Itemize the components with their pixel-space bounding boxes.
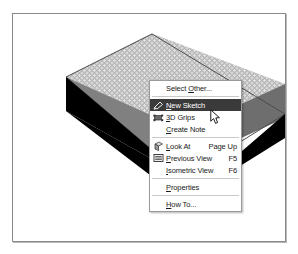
menu-separator [152,96,239,97]
menu-item-accel: F5 [228,154,238,163]
context-menu[interactable]: Select Other... New Sketch [149,80,242,212]
menu-item-label: 3D Grips [166,113,231,122]
menu-item-label: How To... [166,200,231,209]
menu-item-properties[interactable]: Properties [150,181,241,193]
menu-item-label: Select Other... [166,84,231,93]
menu-item-label: Properties [166,183,231,192]
screenshot-root: Select Other... New Sketch [0,0,298,254]
menu-item-new-sketch[interactable]: New Sketch [150,99,241,111]
menu-item-how-to[interactable]: How To... [150,198,241,210]
menu-item-accel: F6 [228,166,238,175]
previous-view-icon [152,153,164,164]
menu-item-label: Create Note [166,125,231,134]
look-at-icon [152,141,164,152]
menu-item-look-at[interactable]: Look At Page Up [150,140,241,152]
menu-icon-placeholder [152,199,164,210]
menu-item-label: New Sketch [166,101,231,110]
menu-item-label: Look At [166,142,203,151]
new-sketch-icon [152,100,164,111]
menu-item-label: Previous View [166,154,222,163]
menu-icon-placeholder [152,182,164,193]
menu-item-create-note[interactable]: Create Note [150,123,241,135]
menu-item-isometric-view[interactable]: Isometric View F6 [150,164,241,176]
menu-item-3d-grips[interactable]: 3D Grips [150,111,241,123]
menu-item-accel: Page Up [209,142,239,151]
menu-icon-placeholder [152,165,164,176]
menu-item-label: Isometric View [166,166,222,175]
menu-separator [152,137,239,138]
model-viewport[interactable]: Select Other... New Sketch [12,13,286,242]
menu-icon-placeholder [152,83,164,94]
3d-grips-icon [152,112,164,123]
menu-separator [152,178,239,179]
menu-item-select-other[interactable]: Select Other... [150,82,241,94]
menu-separator [152,195,239,196]
menu-item-previous-view[interactable]: Previous View F5 [150,152,241,164]
menu-icon-placeholder [152,124,164,135]
